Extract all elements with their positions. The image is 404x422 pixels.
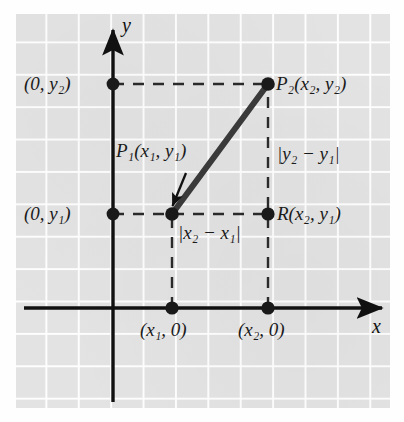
x-axis-label: x (372, 315, 381, 338)
label-y1-intercept: (0, y₁) (24, 204, 71, 223)
point-p1 (165, 207, 179, 221)
label-horizontal-distance: |x₂ − x₁| (178, 223, 241, 242)
label-vertical-distance: |y₂ − y₁| (277, 144, 340, 163)
point-y1-on-axis (107, 208, 120, 221)
label-x2-intercept: (x₂, 0) (238, 320, 285, 339)
y-axis-label: y (122, 14, 131, 37)
point-r (261, 207, 274, 220)
label-x1-intercept: (x₁, 0) (140, 320, 187, 339)
point-p2 (261, 77, 275, 91)
point-x2-on-axis (261, 301, 274, 314)
label-y2-intercept: (0, y₂) (24, 74, 71, 93)
point-y2-on-axis (107, 78, 120, 91)
label-r: R(x₂, y₁) (277, 204, 341, 223)
label-p2: P₂(x₂, y₂) (276, 74, 346, 93)
label-p1: P₁(x₁, y₁) (116, 141, 186, 160)
point-x1-on-axis (165, 301, 178, 314)
distance-formula-figure: y x (0, y₂) (0, y₁) P₂(x₂, y₂) P₁(x₁, y₁… (0, 0, 404, 422)
